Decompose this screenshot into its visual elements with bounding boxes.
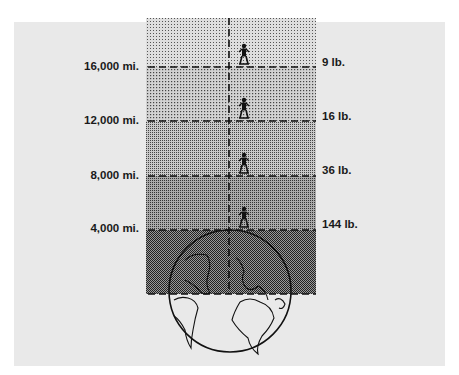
weight-label-144: 144 lb.	[322, 218, 358, 230]
weight-label-9: 9 lb.	[322, 56, 345, 68]
atmosphere-column	[146, 18, 316, 294]
distance-label-4000: 4,000 mi.	[19, 222, 139, 234]
distance-label-12000: 12,000 mi.	[19, 114, 139, 126]
distance-label-8000: 8,000 mi.	[19, 169, 139, 181]
weight-label-16: 16 lb.	[322, 110, 351, 122]
gravity-diagram	[0, 0, 459, 375]
weight-label-36: 36 lb.	[322, 164, 351, 176]
distance-label-16000: 16,000 mi.	[19, 60, 139, 72]
